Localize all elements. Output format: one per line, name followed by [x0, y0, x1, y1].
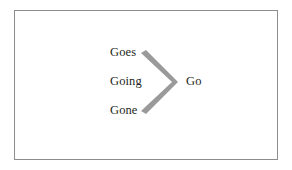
- input-term-goes: Goes: [110, 45, 136, 59]
- chevron-right-icon: [138, 48, 184, 118]
- convergence-diagram: Goes Going Gone Go: [0, 0, 292, 170]
- input-term-gone: Gone: [110, 103, 137, 117]
- figure-canvas: Goes Going Gone Go: [0, 0, 292, 170]
- output-term-go: Go: [186, 74, 201, 88]
- chevron-right-shape: [141, 50, 178, 114]
- input-term-going: Going: [110, 74, 142, 88]
